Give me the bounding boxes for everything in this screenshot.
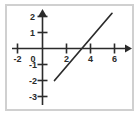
y-tick-label-1: 1 [30, 28, 35, 38]
plot-frame: -2 0 2 4 6 2 1 -1 -2 -3 [5, 4, 134, 111]
data-line-segment [55, 13, 113, 80]
y-tick-label--1: -1 [29, 60, 37, 70]
x-tick-label-4: 4 [88, 54, 93, 64]
x-tick-label-6: 6 [112, 54, 117, 64]
data-series-group [55, 13, 113, 80]
y-tick-label-2: 2 [30, 12, 35, 22]
x-tick-label-2: 2 [64, 54, 69, 64]
x-axis-group [12, 44, 132, 54]
y-tick-label--2: -2 [29, 76, 37, 86]
y-tick-label--3: -3 [29, 92, 37, 102]
coordinate-plane-chart: -2 0 2 4 6 2 1 -1 -2 -3 [7, 6, 132, 109]
y-axis-group [38, 9, 48, 105]
graph-figure: -2 0 2 4 6 2 1 -1 -2 -3 [0, 0, 139, 115]
y-axis-arrow-icon [39, 9, 47, 16]
x-tick-label--2: -2 [13, 54, 21, 64]
x-axis-arrow-icon [125, 45, 132, 53]
plot-area: -2 0 2 4 6 2 1 -1 -2 -3 [7, 6, 132, 109]
